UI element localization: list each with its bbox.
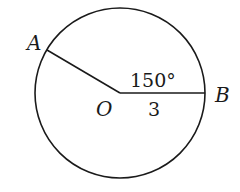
point-b-label: B (214, 83, 230, 107)
angle-label: 150° (130, 69, 176, 91)
point-a-label: A (25, 31, 41, 55)
radius-oa (47, 50, 120, 93)
circle-diagram: A B O 150° 3 (0, 0, 240, 192)
center-o-label: O (96, 97, 112, 121)
radius-label: 3 (148, 98, 160, 120)
